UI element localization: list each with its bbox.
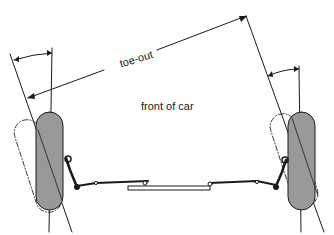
right-track-rod-adjuster	[255, 180, 258, 183]
left-toe-angle-arc	[14, 53, 52, 60]
toe-out-arrowhead-right	[239, 16, 247, 22]
diagram-canvas	[0, 0, 334, 235]
left-track-rod	[77, 181, 148, 186]
left-track-rod-adjuster	[94, 181, 97, 184]
right-rack-end	[208, 182, 212, 186]
toe-out-diagram: toe-out front of car	[0, 0, 334, 235]
left-rack-end	[143, 181, 147, 185]
steering-rack	[128, 186, 210, 190]
right-arc-arrowhead	[294, 66, 299, 72]
left-wheel	[36, 112, 63, 210]
left-arc-arrowhead-2	[14, 56, 19, 62]
toe-out-arrowhead-left	[27, 93, 35, 99]
right-wheel	[288, 112, 315, 210]
right-arc-arrowhead-2	[268, 71, 273, 77]
right-steering-arm	[276, 160, 286, 186]
toe-out-dimension-line-right	[157, 16, 246, 50]
left-arc-arrowhead	[47, 50, 52, 56]
toe-out-dimension-line-left	[28, 70, 104, 98]
right-balljoint	[273, 184, 278, 189]
right-track-rod	[209, 181, 276, 185]
front-of-car-label: front of car	[141, 100, 194, 112]
